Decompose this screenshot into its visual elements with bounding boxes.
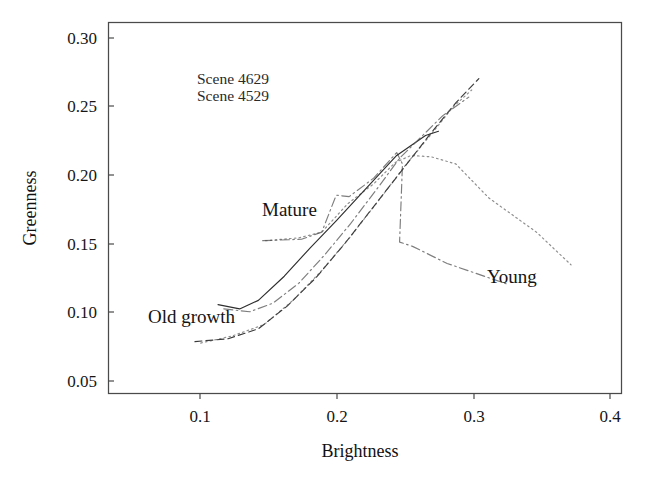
- series-line: [195, 79, 479, 342]
- x-tick-label: 0.2: [326, 407, 347, 426]
- y-tick-label: 0.30: [67, 29, 97, 48]
- scatter-line-chart: 0.30 0.25 0.20 0.15 0.10 0.05 0.1 0.2 0.…: [0, 0, 659, 485]
- annotation-mature: Mature: [262, 199, 317, 220]
- annotation-young: Young: [487, 266, 537, 287]
- plot-annotations: Old growth Mature Young: [148, 199, 537, 327]
- series-line: [224, 97, 469, 312]
- x-tick-label: 0.3: [463, 407, 484, 426]
- figure-container: 0.30 0.25 0.20 0.15 0.10 0.05 0.1 0.2 0.…: [0, 0, 659, 485]
- x-tick-label: 0.1: [189, 407, 210, 426]
- annotation-old-growth: Old growth: [148, 306, 236, 327]
- x-tick-label: 0.4: [599, 407, 621, 426]
- legend-entry-scene-4629: Scene 4629: [197, 70, 269, 87]
- x-axis-title: Brightness: [321, 441, 398, 461]
- legend: Scene 4629 Scene 4529: [197, 70, 269, 104]
- y-tick-label: 0.20: [67, 166, 97, 185]
- y-tick-label: 0.05: [67, 372, 97, 391]
- data-series-layer: [195, 79, 571, 343]
- y-tick-label: 0.15: [67, 235, 97, 254]
- x-tickmarks: [200, 394, 610, 400]
- y-axis-title: Greenness: [20, 171, 40, 246]
- y-tickmarks: [109, 38, 115, 381]
- legend-entry-scene-4529: Scene 4529: [197, 87, 269, 104]
- y-tick-label: 0.10: [67, 303, 97, 322]
- x-axis-tick-labels: 0.1 0.2 0.3 0.4: [189, 407, 621, 426]
- y-axis-tick-labels: 0.30 0.25 0.20 0.15 0.10 0.05: [67, 29, 97, 391]
- plot-frame: [109, 23, 622, 394]
- y-tick-label: 0.25: [67, 97, 97, 116]
